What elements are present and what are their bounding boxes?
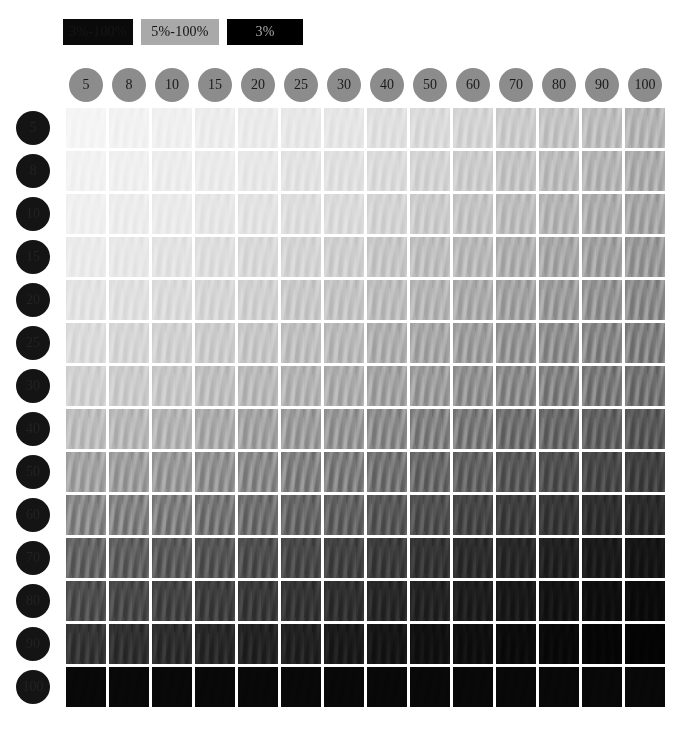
halftone-patch: [238, 581, 278, 621]
halftone-patch-fill: [152, 323, 192, 363]
halftone-patch: [195, 237, 235, 277]
halftone-patch: [324, 151, 364, 191]
halftone-patch: [66, 667, 106, 707]
halftone-patch: [582, 409, 622, 449]
halftone-patch: [238, 495, 278, 535]
column-header-20: 20: [238, 65, 278, 105]
column-header-bubble: 8: [112, 68, 146, 102]
halftone-patch-fill: [625, 409, 665, 449]
halftone-patch-fill: [453, 108, 493, 148]
grid-row: 50: [3, 452, 665, 492]
halftone-patch-fill: [152, 366, 192, 406]
halftone-patch: [625, 323, 665, 363]
halftone-patch: [625, 280, 665, 320]
halftone-patch-fill: [66, 495, 106, 535]
halftone-patch-fill: [496, 667, 536, 707]
row-header-100: 100: [3, 667, 63, 707]
halftone-patch-fill: [238, 409, 278, 449]
halftone-patch: [238, 237, 278, 277]
halftone-patch: [109, 280, 149, 320]
halftone-patch: [410, 624, 450, 664]
halftone-patch-fill: [195, 667, 235, 707]
halftone-patch-fill: [625, 237, 665, 277]
halftone-patch: [66, 409, 106, 449]
halftone-patch: [410, 366, 450, 406]
row-header-bubble: 100: [16, 670, 50, 704]
halftone-patch: [109, 151, 149, 191]
halftone-patch: [109, 581, 149, 621]
halftone-patch: [238, 667, 278, 707]
column-header-70: 70: [496, 65, 536, 105]
column-header-bubble: 15: [198, 68, 232, 102]
halftone-patch: [582, 624, 622, 664]
halftone-patch: [324, 624, 364, 664]
halftone-patch-fill: [324, 581, 364, 621]
halftone-patch: [281, 108, 321, 148]
row-header-bubble: 30: [16, 369, 50, 403]
halftone-patch: [453, 108, 493, 148]
halftone-patch-fill: [410, 667, 450, 707]
halftone-patch: [66, 624, 106, 664]
halftone-patch-fill: [281, 323, 321, 363]
legend-swatch-label: 3%: [255, 24, 274, 40]
halftone-patch-fill: [539, 409, 579, 449]
row-header-bubble: 10: [16, 197, 50, 231]
halftone-patch-fill: [66, 151, 106, 191]
legend-swatch-label: 3%-100%: [69, 24, 126, 40]
legend: 3%-100% 5%-100% 3%: [63, 19, 303, 45]
halftone-patch-fill: [281, 280, 321, 320]
halftone-patch-fill: [539, 624, 579, 664]
halftone-patch: [496, 237, 536, 277]
halftone-patch: [66, 452, 106, 492]
halftone-patch: [195, 323, 235, 363]
row-header-8: 8: [3, 151, 63, 191]
halftone-patch: [453, 667, 493, 707]
halftone-patch: [582, 667, 622, 707]
halftone-patch-fill: [324, 194, 364, 234]
grid-corner-cell: [3, 65, 63, 105]
halftone-patch: [152, 366, 192, 406]
halftone-patch: [152, 108, 192, 148]
legend-swatch-range-3-100: 3%-100%: [63, 19, 133, 45]
halftone-patch-fill: [109, 323, 149, 363]
column-header-bubble: 60: [456, 68, 490, 102]
halftone-patch: [195, 581, 235, 621]
halftone-patch: [281, 667, 321, 707]
halftone-patch-fill: [539, 581, 579, 621]
halftone-patch-fill: [367, 280, 407, 320]
halftone-patch: [195, 366, 235, 406]
halftone-patch-fill: [410, 581, 450, 621]
halftone-patch: [324, 452, 364, 492]
halftone-patch: [582, 538, 622, 578]
halftone-patch: [539, 108, 579, 148]
halftone-patch-fill: [410, 409, 450, 449]
halftone-patch-fill: [582, 495, 622, 535]
halftone-patch: [324, 194, 364, 234]
halftone-patch-fill: [109, 280, 149, 320]
halftone-patch-fill: [367, 366, 407, 406]
halftone-patch-fill: [582, 323, 622, 363]
halftone-patch-fill: [324, 237, 364, 277]
halftone-patch-fill: [238, 581, 278, 621]
halftone-patch: [238, 108, 278, 148]
halftone-patch: [367, 280, 407, 320]
halftone-patch: [238, 366, 278, 406]
halftone-patch-fill: [539, 151, 579, 191]
halftone-patch: [281, 151, 321, 191]
halftone-patch-fill: [109, 366, 149, 406]
halftone-patch: [281, 538, 321, 578]
halftone-patch: [324, 409, 364, 449]
column-header-bubble: 100: [628, 68, 662, 102]
halftone-patch-fill: [238, 323, 278, 363]
halftone-patch: [238, 538, 278, 578]
grid-row: 8: [3, 151, 665, 191]
halftone-patch: [410, 151, 450, 191]
halftone-patch: [109, 108, 149, 148]
halftone-patch: [539, 194, 579, 234]
halftone-patch-fill: [152, 237, 192, 277]
halftone-patch: [238, 323, 278, 363]
halftone-patch: [582, 581, 622, 621]
halftone-patch: [625, 495, 665, 535]
halftone-patch: [195, 495, 235, 535]
halftone-patch-fill: [66, 366, 106, 406]
